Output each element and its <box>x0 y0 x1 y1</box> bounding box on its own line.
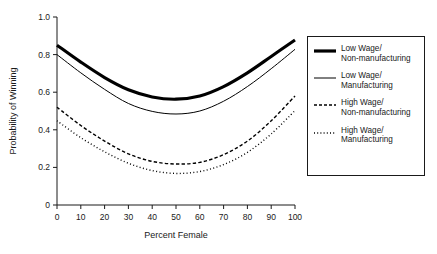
legend-swatch-solid-thick-icon <box>314 45 336 57</box>
legend-label: High Wage/ Non-manufacturing <box>341 98 411 117</box>
x-tick-label: 60 <box>195 212 205 222</box>
x-tick-label: 20 <box>100 212 110 222</box>
series-line-1 <box>57 49 295 114</box>
x-tick-label: 80 <box>243 212 253 222</box>
legend-swatch-dotted-icon <box>314 127 336 139</box>
x-tick-label: 40 <box>147 212 157 222</box>
axis-lines <box>57 17 295 205</box>
y-tick-label: 1.0 <box>38 12 50 22</box>
series-line-2 <box>57 96 295 164</box>
legend-item-low-wage-non-manufacturing[interactable]: Low Wage/ Non-manufacturing <box>308 44 424 63</box>
legend-label: Low Wage/ Non-manufacturing <box>341 44 411 63</box>
legend-item-high-wage-non-manufacturing[interactable]: High Wage/ Non-manufacturing <box>308 98 424 117</box>
x-tick-label: 0 <box>55 212 60 222</box>
y-axis-title: Probability of Winning <box>8 67 18 154</box>
y-tick-label: 0.4 <box>38 125 50 135</box>
chart-figure: 00.20.40.60.81.00102030405060708090100Pe… <box>0 0 437 254</box>
legend-label: Low Wage/ Manufacturing <box>341 71 393 90</box>
x-tick-label: 30 <box>124 212 134 222</box>
series-line-0 <box>57 40 295 99</box>
legend-swatch-solid-thin-icon <box>314 72 336 84</box>
legend-swatch-dashed-icon <box>314 99 336 111</box>
y-tick-label: 0 <box>45 200 50 210</box>
legend-item-low-wage-manufacturing[interactable]: Low Wage/ Manufacturing <box>308 71 424 90</box>
y-tick-label: 0.6 <box>38 87 50 97</box>
legend-label: High Wage/ Manufacturing <box>341 126 393 145</box>
x-tick-label: 50 <box>171 212 181 222</box>
x-tick-label: 10 <box>76 212 86 222</box>
x-tick-label: 70 <box>219 212 229 222</box>
y-tick-label: 0.8 <box>38 50 50 60</box>
chart-legend: Low Wage/ Non-manufacturing Low Wage/ Ma… <box>307 36 425 176</box>
legend-item-high-wage-manufacturing[interactable]: High Wage/ Manufacturing <box>308 126 424 145</box>
x-axis-title: Percent Female <box>144 230 208 240</box>
y-tick-label: 0.2 <box>38 162 50 172</box>
x-tick-label: 100 <box>288 212 302 222</box>
x-tick-label: 90 <box>266 212 276 222</box>
